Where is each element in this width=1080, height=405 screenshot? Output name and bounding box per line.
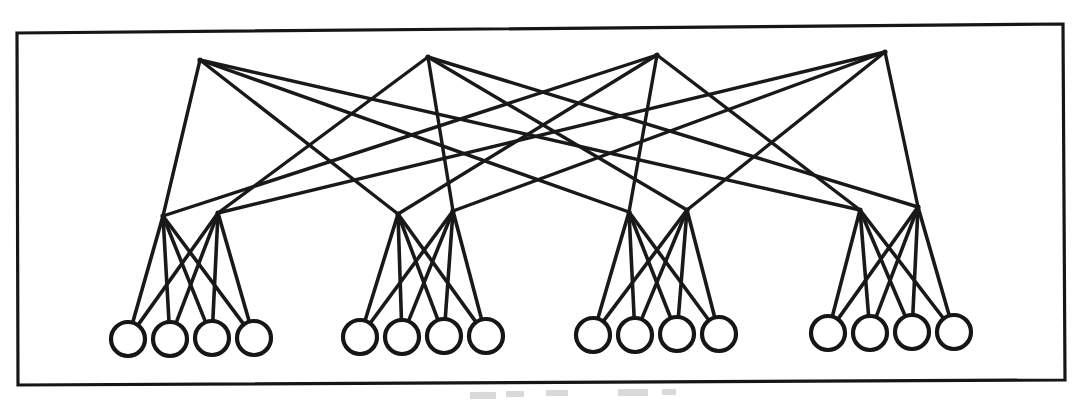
leaf-node-l4 (343, 320, 377, 354)
leaf-node-l11 (702, 317, 736, 351)
scan-artifact-1 (506, 391, 524, 397)
top-node-t3 (882, 49, 887, 54)
edge-m5-l8 (604, 210, 687, 321)
leaf-node-l7 (469, 319, 503, 353)
mid-node-m0 (160, 213, 165, 218)
leaf-node-l14 (895, 315, 929, 349)
middle-to-leaf-edges (133, 207, 949, 324)
mid-node-m3 (450, 208, 455, 213)
leaf-node-l15 (937, 315, 971, 349)
leaf-node-l2 (195, 321, 229, 355)
leaf-node-l5 (385, 320, 419, 354)
edge-t2-m2 (398, 55, 657, 214)
edge-m1-l0 (138, 213, 218, 324)
mid-node-m6 (857, 207, 862, 212)
leaf-node-l12 (811, 316, 845, 350)
leaf-node-l0 (111, 322, 145, 356)
edge-m2-l5 (398, 214, 401, 319)
mid-node-m7 (915, 204, 920, 209)
top-node-t2 (654, 52, 659, 57)
leaf-node-l13 (853, 316, 887, 350)
scan-artifact-0 (470, 392, 496, 399)
scan-artifacts (470, 389, 676, 399)
edge-m4-l8 (598, 212, 629, 318)
top-tier-nodes (197, 49, 887, 62)
mid-node-m1 (215, 210, 220, 215)
scan-artifact-4 (662, 389, 676, 395)
edge-t3-m7 (885, 52, 918, 207)
top-node-t1 (425, 54, 430, 59)
edge-t1-m1 (218, 57, 428, 213)
top-node-t0 (197, 57, 202, 62)
leaf-node-l1 (153, 322, 187, 356)
edge-t0-m0 (163, 60, 200, 216)
edge-t1-m7 (428, 57, 918, 207)
leaf-node-l6 (427, 319, 461, 353)
leaf-node-l8 (576, 318, 610, 352)
edge-m3-l7 (453, 211, 481, 319)
figure-canvas (0, 0, 1080, 405)
edge-m2-l4 (365, 214, 398, 320)
network-diagram (0, 0, 1080, 405)
scan-artifact-2 (546, 390, 568, 396)
mid-node-m5 (684, 207, 689, 212)
leaf-node-l10 (660, 317, 694, 351)
mid-node-m4 (626, 209, 631, 214)
leaf-node-l9 (618, 318, 652, 352)
mid-node-m2 (395, 211, 400, 216)
edge-t2-m0 (163, 55, 657, 216)
edge-m5-l11 (687, 210, 715, 317)
top-to-middle-edges (163, 52, 918, 216)
edge-m4-l11 (629, 212, 708, 320)
leaf-node-l3 (237, 321, 271, 355)
edge-m6-l12 (833, 210, 860, 316)
scan-artifact-3 (618, 389, 648, 396)
middle-tier-nodes (160, 204, 920, 218)
edge-m7-l12 (838, 207, 918, 318)
edge-m0-l0 (133, 216, 163, 322)
edge-m7-l15 (918, 207, 949, 315)
edge-m1-l3 (218, 213, 249, 321)
edge-m6-l15 (860, 210, 943, 318)
